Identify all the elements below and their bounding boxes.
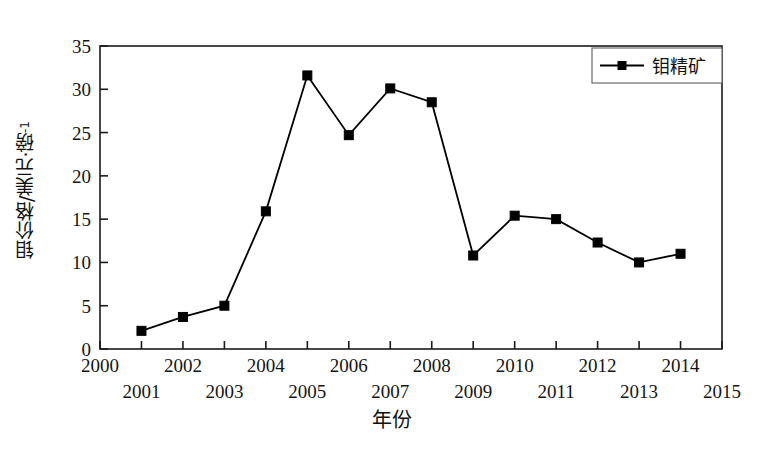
data-point-marker bbox=[344, 131, 353, 140]
data-point-marker bbox=[552, 215, 561, 224]
x-tick-label: 2004 bbox=[247, 355, 286, 376]
y-tick-label: 25 bbox=[72, 123, 91, 144]
y-axis-ticks: 05101520253035 bbox=[72, 36, 108, 360]
y-tick-label: 15 bbox=[72, 209, 91, 230]
data-point-marker bbox=[510, 211, 519, 220]
x-tick-label: 2007 bbox=[371, 381, 409, 402]
x-tick-label: 2000 bbox=[81, 355, 119, 376]
y-tick-label: 20 bbox=[72, 166, 91, 187]
x-tick-label: 2014 bbox=[662, 355, 701, 376]
x-tick-label: 2005 bbox=[288, 381, 326, 402]
x-axis-title: 年份 bbox=[0, 404, 784, 433]
chart-legend: 钼精矿 bbox=[592, 48, 722, 83]
data-point-marker bbox=[261, 207, 270, 216]
x-tick-label: 2006 bbox=[330, 355, 368, 376]
y-tick-label: 35 bbox=[72, 36, 91, 57]
x-tick-label: 2001 bbox=[122, 381, 160, 402]
data-point-marker bbox=[469, 251, 478, 260]
y-tick-label: 5 bbox=[82, 296, 92, 317]
data-point-marker bbox=[220, 301, 229, 310]
data-point-marker bbox=[178, 312, 187, 321]
x-tick-label: 2010 bbox=[496, 355, 534, 376]
axes-frame bbox=[100, 46, 722, 349]
data-series-layer bbox=[137, 71, 685, 335]
data-point-marker bbox=[427, 98, 436, 107]
data-point-marker bbox=[676, 249, 685, 258]
y-tick-label: 10 bbox=[72, 252, 91, 273]
data-point-marker bbox=[137, 326, 146, 335]
data-point-marker bbox=[635, 258, 644, 267]
x-tick-label: 2003 bbox=[205, 381, 243, 402]
line-chart-plot: 05101520253035 2000200120022003200420052… bbox=[0, 0, 784, 452]
data-point-marker bbox=[593, 238, 602, 247]
y-axis-title-text: 钼价格/美元·磅 bbox=[12, 133, 39, 259]
x-tick-label: 2015 bbox=[703, 381, 741, 402]
x-tick-label: 2008 bbox=[413, 355, 451, 376]
data-point-marker bbox=[303, 71, 312, 80]
y-axis-title: 钼价格/美元·磅-1 bbox=[8, 40, 42, 340]
legend-marker-sample bbox=[618, 61, 627, 70]
x-tick-label: 2009 bbox=[454, 381, 492, 402]
legend-label: 钼精矿 bbox=[652, 56, 706, 77]
data-point-marker bbox=[386, 84, 395, 93]
chart-figure: 钼价格/美元·磅-1 05101520253035 20002001200220… bbox=[0, 0, 784, 452]
y-axis-title-exponent: -1 bbox=[18, 121, 32, 133]
x-tick-label: 2012 bbox=[579, 355, 617, 376]
x-tick-label: 2002 bbox=[164, 355, 202, 376]
x-axis-ticks: 2000200120022003200420052006200720082009… bbox=[81, 341, 741, 402]
x-tick-label: 2011 bbox=[537, 381, 574, 402]
x-tick-label: 2013 bbox=[620, 381, 658, 402]
y-tick-label: 30 bbox=[72, 79, 91, 100]
